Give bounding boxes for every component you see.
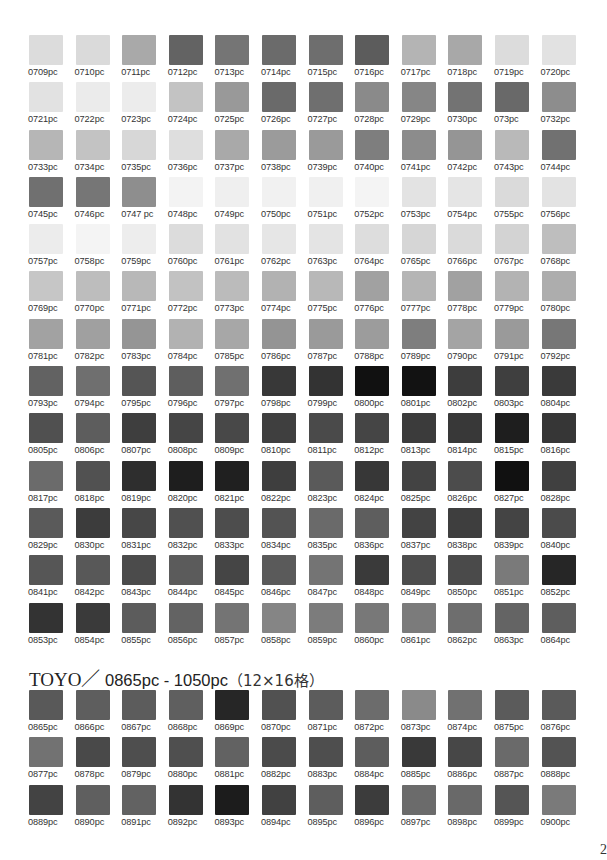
swatch-cell: 0724pc [169, 82, 215, 129]
swatch-cell: 0798pc [262, 366, 308, 413]
swatch-code-label: 0859pc [308, 635, 338, 645]
color-swatch [402, 35, 436, 65]
swatch-code-label: 0725pc [214, 114, 244, 124]
swatch-cell: 0856pc [169, 603, 215, 650]
swatch-cell: 0788pc [355, 319, 401, 366]
color-swatch [402, 785, 436, 815]
section-title-dims: （12×16格） [228, 672, 324, 690]
color-swatch [448, 555, 482, 585]
swatch-cell: 0803pc [495, 366, 541, 413]
color-swatch [309, 177, 343, 207]
swatch-code-label: 0753pc [401, 209, 431, 219]
swatch-code-label: 0768pc [541, 256, 571, 266]
swatch-cell: 0824pc [355, 461, 401, 508]
color-swatch [76, 555, 110, 585]
swatch-cell: 0717pc [402, 35, 448, 82]
color-swatch [309, 224, 343, 254]
swatch-code-label: 0899pc [494, 817, 524, 827]
swatch-code-label: 0780pc [541, 303, 571, 313]
color-swatch [215, 737, 249, 767]
color-swatch [309, 130, 343, 160]
swatch-code-label: 0761pc [214, 256, 244, 266]
swatch-cell: 0886pc [448, 737, 494, 784]
swatch-cell: 0821pc [215, 461, 261, 508]
swatch-code-label: 0866pc [75, 722, 105, 732]
swatch-code-label: 0713pc [214, 67, 244, 77]
swatch-cell: 0792pc [542, 319, 588, 366]
swatch-code-label: 0782pc [75, 351, 105, 361]
swatch-code-label: 0884pc [354, 769, 384, 779]
swatch-cell: 0875pc [495, 690, 541, 737]
swatch-cell: 0762pc [262, 224, 308, 271]
swatch-cell: 0876pc [542, 690, 588, 737]
swatch-code-label: 0881pc [214, 769, 244, 779]
color-swatch [215, 413, 249, 443]
swatch-cell: 0712pc [169, 35, 215, 82]
swatch-code-label: 0856pc [168, 635, 198, 645]
swatch-cell: 0847pc [309, 555, 355, 602]
swatch-cell: 0748pc [169, 177, 215, 224]
swatch-cell: 0774pc [262, 271, 308, 318]
swatch-code-label: 0741pc [401, 162, 431, 172]
color-swatch [29, 271, 63, 301]
swatch-code-label: 0861pc [401, 635, 431, 645]
swatch-cell: 0753pc [402, 177, 448, 224]
swatch-code-label: 0807pc [121, 445, 151, 455]
color-swatch [215, 177, 249, 207]
color-swatch [448, 603, 482, 633]
color-swatch [309, 690, 343, 720]
swatch-cell: 0837pc [402, 508, 448, 555]
color-swatch [402, 737, 436, 767]
color-swatch [448, 271, 482, 301]
swatch-code-label: 0716pc [354, 67, 384, 77]
color-swatch [355, 690, 389, 720]
swatch-cell: 0822pc [262, 461, 308, 508]
color-swatch [215, 785, 249, 815]
swatch-code-label: 0814pc [447, 445, 477, 455]
swatch-cell: 0858pc [262, 603, 308, 650]
swatch-cell: 0826pc [448, 461, 494, 508]
color-swatch [355, 737, 389, 767]
swatch-code-label: 0728pc [354, 114, 384, 124]
swatch-code-label: 0745pc [28, 209, 58, 219]
swatch-code-label: 0821pc [214, 493, 244, 503]
swatch-cell: 0716pc [355, 35, 401, 82]
swatch-code-label: 0772pc [168, 303, 198, 313]
swatch-cell: 0811pc [309, 413, 355, 460]
swatch-grid-0865-0900: 0865pc0866pc0867pc0868pc0869pc0870pc0871… [29, 690, 588, 832]
swatch-code-label: 0737pc [214, 162, 244, 172]
swatch-cell: 0722pc [76, 82, 122, 129]
color-swatch [76, 413, 110, 443]
swatch-cell: 0889pc [29, 785, 75, 832]
color-swatch [169, 82, 203, 112]
swatch-cell: 0898pc [448, 785, 494, 832]
swatch-code-label: 0778pc [447, 303, 477, 313]
swatch-code-label: 0845pc [214, 587, 244, 597]
color-swatch [262, 555, 296, 585]
color-swatch [169, 737, 203, 767]
color-swatch [495, 508, 529, 538]
swatch-cell: 0816pc [542, 413, 588, 460]
swatch-code-label: 0783pc [121, 351, 151, 361]
color-swatch [355, 319, 389, 349]
color-swatch [122, 177, 156, 207]
swatch-code-label: 0820pc [168, 493, 198, 503]
color-swatch [76, 271, 110, 301]
swatch-cell: 0770pc [76, 271, 122, 318]
color-swatch [29, 508, 63, 538]
swatch-cell: 0829pc [29, 508, 75, 555]
swatch-cell: 0814pc [448, 413, 494, 460]
swatch-cell: 0878pc [76, 737, 122, 784]
swatch-cell: 0711pc [122, 35, 168, 82]
swatch-code-label: 0844pc [168, 587, 198, 597]
swatch-code-label: 0756pc [541, 209, 571, 219]
swatch-cell: 0834pc [262, 508, 308, 555]
color-swatch [402, 271, 436, 301]
swatch-cell: 0752pc [355, 177, 401, 224]
swatch-code-label: 0842pc [75, 587, 105, 597]
color-swatch [262, 737, 296, 767]
swatch-cell: 0893pc [215, 785, 261, 832]
color-swatch [76, 737, 110, 767]
color-swatch [309, 35, 343, 65]
swatch-code-label: 0854pc [75, 635, 105, 645]
